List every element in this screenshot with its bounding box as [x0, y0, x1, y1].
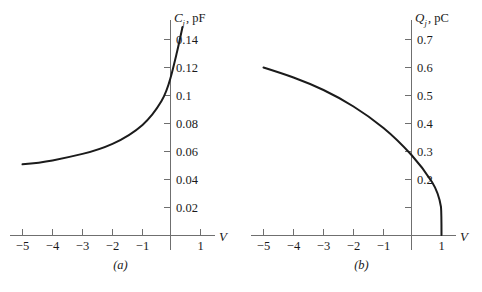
y-tick-label-a-4: 0.1	[176, 89, 192, 103]
x-axis-title-b: V	[460, 229, 470, 244]
y-tick-label-b-4: 0.6	[417, 61, 433, 75]
plot-b-svg: −5 −4 −3 −2 −1 1 0.2 0.3 0.4 0.5 0.6 0.7…	[241, 0, 482, 260]
y-ticks-b	[405, 40, 412, 208]
x-tick-label-b-4: −1	[377, 239, 390, 253]
x-tick-label-a-2: −3	[76, 239, 89, 253]
caption-a: (a)	[0, 258, 241, 273]
y-tick-label-a-1: 0.04	[176, 173, 199, 187]
y-tick-label-a-3: 0.08	[176, 117, 198, 131]
y-axis-subscript-a: j	[182, 18, 186, 28]
y-tick-label-a-2: 0.06	[176, 145, 198, 159]
y-axis-subscript-b: j	[424, 18, 428, 28]
y-ticks-a	[164, 40, 171, 208]
curve-cj	[23, 27, 183, 164]
y-tick-label-b-1: 0.3	[417, 145, 433, 159]
panel-b: −5 −4 −3 −2 −1 1 0.2 0.3 0.4 0.5 0.6 0.7…	[241, 0, 482, 292]
x-ticks-b	[264, 229, 442, 236]
curve-qj	[264, 68, 442, 236]
y-axis-unit-a: , pF	[186, 11, 206, 25]
caption-b: (b)	[241, 258, 482, 273]
y-axis-title-a: C j , pF	[174, 10, 206, 28]
x-tick-label-b-3: −2	[347, 239, 360, 253]
x-tick-label-b-2: −3	[317, 239, 330, 253]
y-axis-unit-b: , pC	[428, 11, 449, 25]
x-tick-label-b-1: −4	[287, 239, 301, 253]
x-ticks-a	[23, 229, 201, 236]
x-axis-title-a: V	[219, 229, 229, 244]
x-tick-label-a-5: 1	[197, 239, 203, 253]
x-tick-label-a-3: −2	[106, 239, 119, 253]
y-tick-label-b-5: 0.7	[417, 33, 433, 47]
y-tick-label-a-0: 0.02	[176, 201, 198, 215]
x-tick-label-b-0: −5	[257, 239, 270, 253]
x-tick-label-a-4: −1	[136, 239, 149, 253]
y-axis-title-b: Q j , pC	[415, 10, 449, 28]
y-tick-label-b-3: 0.5	[417, 89, 433, 103]
x-tick-label-a-0: −5	[16, 239, 29, 253]
panel-a: −5 −4 −3 −2 −1 1 0.02 0.04 0.06 0.08 0.1…	[0, 0, 241, 292]
figure-container: −5 −4 −3 −2 −1 1 0.02 0.04 0.06 0.08 0.1…	[0, 0, 482, 292]
y-axis-symbol-b: Q	[415, 10, 425, 25]
x-tick-label-a-1: −4	[46, 239, 60, 253]
y-tick-label-b-2: 0.4	[417, 117, 433, 131]
y-tick-label-a-5: 0.12	[176, 61, 198, 75]
plot-a-svg: −5 −4 −3 −2 −1 1 0.02 0.04 0.06 0.08 0.1…	[0, 0, 241, 260]
x-tick-label-b-5: 1	[438, 239, 444, 253]
